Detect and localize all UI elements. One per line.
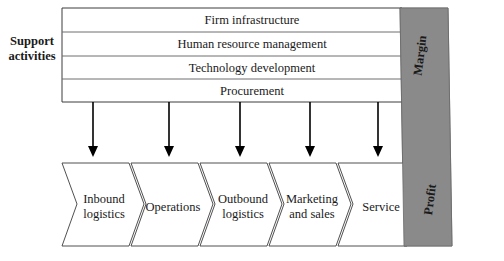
value-chain-canvas: Margin Profit Firm infrastructure Human …	[0, 0, 504, 261]
primary-activity-inbound-logistics: Inbound logistics	[62, 163, 144, 246]
chevron-label-4-line-1: Marketing	[286, 192, 339, 206]
chevron-label-3-line-2: logistics	[222, 207, 264, 221]
connector-arrow-2	[164, 102, 174, 157]
value-chain-diagram: Margin Profit Firm infrastructure Human …	[0, 0, 504, 261]
connector-arrow-1	[88, 102, 98, 157]
support-row-technology-development: Technology development	[189, 61, 316, 75]
chevron-label-1-line-2: logistics	[83, 207, 125, 221]
connector-arrow-5	[373, 102, 383, 157]
support-row-human-resource-management: Human resource management	[177, 37, 327, 51]
chevron-label-5-line-1: Service	[362, 200, 400, 214]
connector-arrow-3	[235, 102, 245, 157]
support-activities-side-label: Support activities	[8, 34, 55, 63]
side-label-line-2: activities	[8, 49, 55, 63]
support-row-procurement: Procurement	[220, 84, 284, 98]
chevron-label-3-line-1: Outbound	[218, 192, 269, 206]
support-row-firm-infrastructure: Firm infrastructure	[205, 13, 300, 27]
band-overlay-group: Margin Profit	[400, 8, 452, 246]
primary-activities-group: Inbound logistics Operations Outbound lo…	[62, 163, 407, 246]
chevron-label-4-line-2: and sales	[289, 207, 335, 221]
side-label-line-1: Support	[10, 34, 55, 48]
connector-arrows	[88, 102, 383, 157]
chevron-label-2-line-1: Operations	[146, 200, 201, 214]
chevron-label-1-line-1: Inbound	[83, 192, 125, 206]
connector-arrow-4	[305, 102, 315, 157]
